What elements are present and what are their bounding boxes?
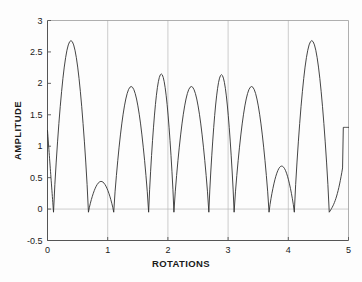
- y-tick-label: 0: [8, 204, 43, 214]
- y-tick-label: -0.5: [8, 236, 43, 246]
- y-tick-label: 3: [8, 16, 43, 26]
- y-tick-label: 2: [8, 78, 43, 88]
- gridlines: [48, 21, 349, 241]
- x-tick-label: 5: [346, 245, 351, 255]
- x-tick-label: 3: [226, 245, 231, 255]
- data-series-line: [48, 41, 349, 213]
- y-tick-label: 1: [8, 141, 43, 151]
- axis-ticks: [48, 21, 349, 241]
- x-tick-label: 2: [165, 245, 170, 255]
- x-tick-label: 0: [45, 245, 50, 255]
- y-tick-label: 1.5: [8, 110, 43, 120]
- x-tick-label: 1: [105, 245, 110, 255]
- chart-figure: AMPLITUDE ROTATIONS -0.500.511.522.53012…: [0, 0, 362, 282]
- y-tick-label: 0.5: [8, 173, 43, 183]
- y-tick-label: 2.5: [8, 47, 43, 57]
- x-tick-label: 4: [286, 245, 291, 255]
- x-axis-label: ROTATIONS: [0, 258, 362, 269]
- plot-area: [0, 0, 362, 282]
- plot-frame: [48, 21, 349, 241]
